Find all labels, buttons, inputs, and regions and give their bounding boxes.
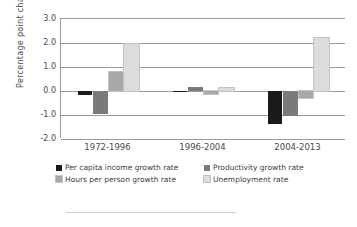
legend-row: Per capita income growth rateProductivit… bbox=[56, 164, 346, 172]
bar bbox=[204, 91, 219, 94]
legend-label: Productivity growth rate bbox=[213, 164, 304, 172]
gridline bbox=[61, 139, 345, 140]
legend-row: Hours per person growth rateUnemployment… bbox=[56, 176, 346, 184]
x-axis-category-label: 1972-1996 bbox=[84, 142, 130, 152]
bar bbox=[268, 91, 283, 124]
bar-chart: Percentage point change 3.02.01.00.0-1.0… bbox=[0, 0, 357, 227]
legend-label: Unemployment rate bbox=[213, 176, 288, 184]
bar bbox=[219, 88, 234, 91]
y-axis-tick-label: 1.0 bbox=[28, 62, 56, 71]
legend-swatch-icon bbox=[204, 176, 210, 182]
y-axis-tick-labels: 3.02.01.00.0-1.0-2.0 bbox=[28, 18, 56, 138]
x-axis-category-label: 1996-2004 bbox=[179, 142, 225, 152]
bar bbox=[299, 91, 314, 98]
x-axis-category-label: 2004-2013 bbox=[274, 142, 320, 152]
bar-group bbox=[268, 19, 330, 138]
y-axis-tick-label: -2.0 bbox=[28, 134, 56, 143]
y-axis-tick-label: 0.0 bbox=[28, 86, 56, 95]
y-axis-tick-label: 3.0 bbox=[28, 14, 56, 23]
plot-area bbox=[60, 18, 345, 138]
y-axis-tick-label: 2.0 bbox=[28, 38, 56, 47]
bar bbox=[124, 44, 139, 91]
bar bbox=[173, 91, 188, 92]
legend-item[interactable]: Per capita income growth rate bbox=[56, 164, 204, 172]
chart-legend: Per capita income growth rateProductivit… bbox=[56, 164, 346, 187]
bar-group bbox=[78, 19, 140, 138]
bar bbox=[93, 91, 108, 114]
bar-groups bbox=[61, 19, 345, 138]
y-axis-tick-label: -1.0 bbox=[28, 110, 56, 119]
bar-group bbox=[173, 19, 235, 138]
legend-label: Per capita income growth rate bbox=[65, 164, 178, 172]
bar bbox=[109, 72, 124, 91]
y-axis-title: Percentage point change bbox=[16, 0, 25, 95]
legend-swatch-icon bbox=[204, 165, 210, 171]
legend-swatch-icon bbox=[56, 176, 62, 182]
legend-label: Hours per person growth rate bbox=[65, 176, 176, 184]
bottom-divider bbox=[66, 212, 236, 213]
bar bbox=[283, 91, 298, 116]
legend-item[interactable]: Hours per person growth rate bbox=[56, 176, 204, 184]
bar bbox=[188, 87, 203, 91]
legend-item[interactable]: Productivity growth rate bbox=[204, 164, 344, 172]
legend-item[interactable]: Unemployment rate bbox=[204, 176, 344, 184]
bar bbox=[314, 38, 329, 91]
legend-swatch-icon bbox=[56, 165, 62, 171]
x-axis-category-labels: 1972-19961996-20042004-2013 bbox=[60, 142, 345, 156]
bar bbox=[78, 91, 93, 95]
